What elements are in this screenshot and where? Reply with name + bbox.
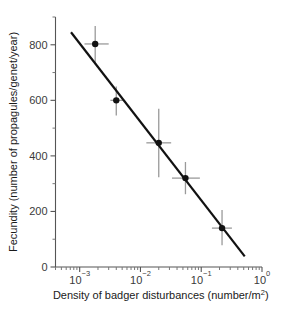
fecundity-vs-badger-disturbance-chart: 0200400600800 10−310−210−1100 Density of… (0, 0, 288, 315)
data-point-marker (219, 225, 225, 231)
y-tick-label: 200 (29, 205, 47, 217)
x-axis-title: Density of badger disturbances (number/m… (53, 288, 269, 301)
y-axis-major-ticks (51, 45, 56, 267)
y-tick-label: 600 (29, 94, 47, 106)
y-tick-label: 0 (41, 261, 47, 273)
x-axis-tick-labels: 10−310−210−1100 (69, 269, 270, 287)
data-point-marker (92, 41, 98, 47)
data-point-marker (182, 175, 188, 181)
data-point-marker (113, 97, 119, 103)
x-axis-major-ticks (80, 267, 262, 272)
y-axis-tick-labels: 0200400600800 (29, 39, 47, 273)
y-tick-label: 800 (29, 39, 47, 51)
y-tick-label: 400 (29, 150, 47, 162)
y-axis-title: Fecundity (number of propagules/genet/ye… (7, 32, 19, 252)
data-point-marker (156, 140, 162, 146)
figure-container: 0200400600800 10−310−210−1100 Density of… (0, 0, 288, 315)
